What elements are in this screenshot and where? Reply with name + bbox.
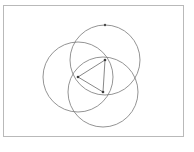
vertex-dot-apex — [104, 24, 106, 26]
canvas-background — [0, 0, 194, 152]
vertex-dot-top — [104, 59, 107, 62]
geometry-canvas — [0, 0, 194, 152]
vertex-dot-bottom-right — [102, 91, 105, 94]
vertex-dot-left — [77, 76, 80, 79]
figure-container: Three intersecting circles with inscribe… — [0, 0, 194, 152]
